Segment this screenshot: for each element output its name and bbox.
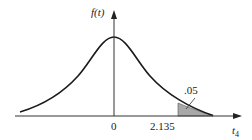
t-distribution-diagram	[0, 0, 252, 140]
tick-label-critical: 2.135	[150, 120, 175, 132]
x-axis-label: t4	[232, 124, 239, 139]
tail-area-label: .05	[184, 84, 198, 96]
tick-label-zero: 0	[111, 120, 117, 132]
y-axis-label: f(t)	[91, 6, 104, 18]
y-axis-arrow-icon	[111, 10, 117, 19]
x-axis-label-subscript: 4	[235, 130, 239, 139]
density-curve	[20, 37, 213, 116]
x-axis-arrow-icon	[233, 113, 242, 119]
